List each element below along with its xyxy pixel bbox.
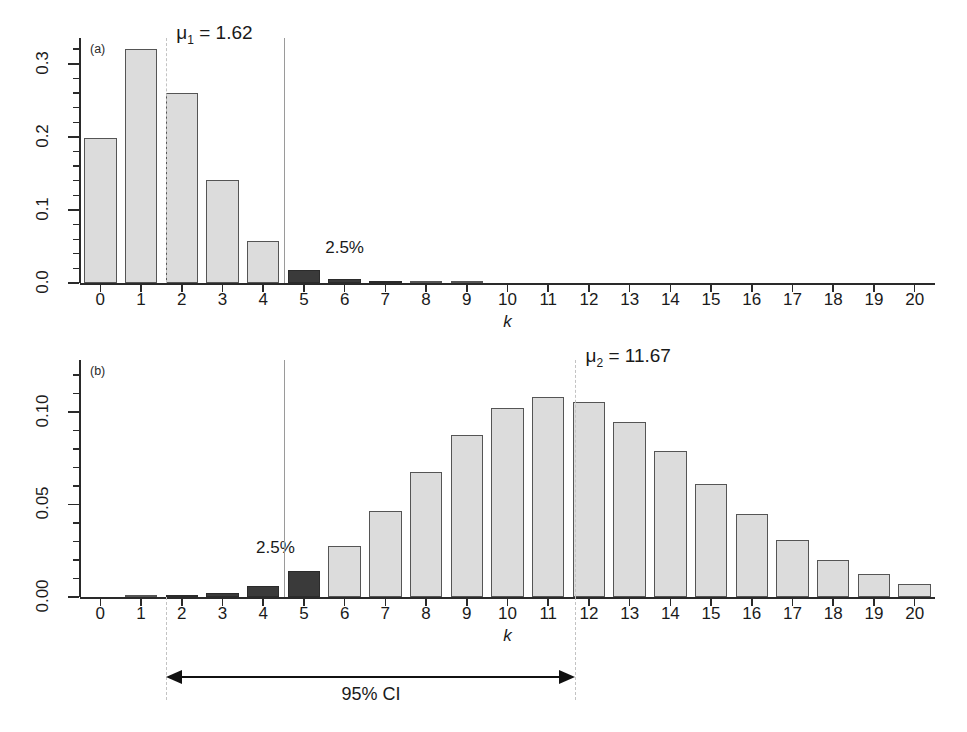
panel_a-x-tick-label: 15 [691, 290, 731, 310]
panel_b-y-minor-tick [73, 467, 79, 468]
panel_b-x-tick-label: 1 [121, 604, 161, 624]
panel_b-x-tick-label: 6 [325, 604, 365, 624]
panel_b-x-tick-label: 7 [365, 604, 405, 624]
panel_a-y-tick-label: 0.1 [33, 184, 53, 234]
panel-b-x-axis-title: k [498, 626, 518, 646]
figure-container: P(X = k) (a) μ1 = 1.62 2.5% k P(X = k) (… [0, 0, 967, 732]
panel_b-bar [736, 514, 769, 597]
panel-a-label: (a) [90, 42, 105, 56]
panel_a-y-minor-tick [73, 92, 79, 93]
panel_b-x-tick-label: 18 [813, 604, 853, 624]
ci-arrow-left-head [166, 670, 182, 684]
panel_b-bar [206, 593, 239, 597]
panel_b-bar [166, 595, 199, 597]
ci-label: 95% CI [301, 684, 441, 705]
panel_b-x-tick-label: 9 [447, 604, 487, 624]
ci-arrow-right-head [559, 670, 575, 684]
panel_b-y-major-tick [68, 596, 79, 598]
panel_a-x-tick-label: 19 [854, 290, 894, 310]
panel_b-y-major-tick [68, 504, 79, 506]
panel_b-y-minor-tick [73, 430, 79, 431]
panel_a-bar [288, 270, 321, 283]
panel_b-reference-line-solid [284, 360, 285, 597]
panel_b-y-minor-tick [73, 578, 79, 579]
panel_a-y-major-tick [68, 136, 79, 138]
panel_a-mu-symbol: μ [176, 22, 187, 43]
panel_b-x-tick-label: 5 [284, 604, 324, 624]
panel_a-bar [328, 279, 361, 283]
panel_b-mu-value: = 11.67 [603, 345, 671, 366]
panel_b-y-minor-tick [73, 485, 79, 486]
panel_a-x-tick-label: 2 [162, 290, 202, 310]
panel_b-x-tick-label: 19 [854, 604, 894, 624]
panel_a-y-major-tick [68, 63, 79, 65]
panel_b-bar [695, 484, 728, 597]
panel_b-y-minor-tick [73, 541, 79, 542]
panel_a-x-tick-label: 0 [80, 290, 120, 310]
panel_a-x-tick-label: 7 [365, 290, 405, 310]
ci-guide-line [575, 597, 576, 700]
panel_b-y-tick-label: 0.10 [33, 386, 53, 436]
panel_b-y-tick-label: 0.05 [33, 478, 53, 528]
panel_a-bar [247, 241, 280, 283]
panel_a-y-tick-label: 0.2 [33, 111, 53, 161]
panel_a-x-tick-label: 11 [528, 290, 568, 310]
panel_a-mean-line [166, 38, 167, 283]
panel_a-bar [451, 281, 484, 283]
panel_b-bar [898, 584, 931, 597]
panel_a-y-minor-tick [73, 195, 79, 196]
panel_a-y-tick-label: 0.3 [33, 38, 53, 88]
ci-arrow-line [178, 676, 563, 678]
panel_a-y-minor-tick [73, 165, 79, 166]
panel_b-x-tick-label: 2 [162, 604, 202, 624]
panel_a-y-minor-tick [73, 151, 79, 152]
panel_a-y-minor-tick [73, 253, 79, 254]
panel_a-y-minor-tick [73, 48, 79, 49]
panel_a-mu-subscript: 1 [187, 33, 194, 47]
panel-a-x-axis-title: k [498, 312, 518, 332]
panel_b-bar [288, 571, 321, 597]
panel_b-x-tick-label: 0 [80, 604, 120, 624]
panel_a-y-minor-tick [73, 78, 79, 79]
panel_b-x-tick-label: 16 [732, 604, 772, 624]
panel_a-x-tick-label: 10 [488, 290, 528, 310]
panel_a-bar [84, 138, 117, 283]
panel_a-x-tick-label: 17 [773, 290, 813, 310]
panel_b-y-major-tick [68, 411, 79, 413]
panel_a-x-tick-label: 18 [813, 290, 853, 310]
panel_a-bar [410, 281, 443, 283]
panel_a-x-tick-label: 14 [650, 290, 690, 310]
panel_a-x-tick-label: 8 [406, 290, 446, 310]
panel-b-label: (b) [90, 364, 105, 378]
panel_a-x-tick-label: 13 [610, 290, 650, 310]
panel_a-x-tick-label: 1 [121, 290, 161, 310]
panel_b-bar [532, 397, 565, 597]
panel_a-bar [369, 281, 402, 283]
panel_b-x-tick-label: 20 [895, 604, 935, 624]
panel_a-reference-line-solid [284, 38, 285, 283]
panel_a-x-tick-label: 6 [325, 290, 365, 310]
panel-a-tail-percent-label: 2.5% [317, 238, 373, 258]
panel_b-bar [613, 422, 646, 597]
panel_a-x-tick-label: 5 [284, 290, 324, 310]
panel_a-x-tick-label: 20 [895, 290, 935, 310]
panel_b-x-tick-label: 3 [203, 604, 243, 624]
panel_a-x-tick-label: 3 [203, 290, 243, 310]
panel_b-bar [247, 586, 280, 597]
panel_b-x-tick-label: 11 [528, 604, 568, 624]
panel_a-y-minor-tick [73, 180, 79, 181]
panel_b-mu-symbol: μ [585, 345, 596, 366]
panel_b-bar [491, 408, 524, 597]
ci-guide-line [166, 597, 167, 700]
panel_a-mu-value: = 1.62 [194, 22, 253, 43]
panel_b-x-tick-label: 8 [406, 604, 446, 624]
panel_a-bar [125, 49, 158, 283]
panel_b-y-axis-line [79, 360, 81, 597]
panel_a-y-tick-label: 0.0 [33, 257, 53, 307]
panel_b-bar [125, 595, 158, 597]
panel_a-x-tick-label: 12 [569, 290, 609, 310]
panel_a-bar [166, 93, 199, 283]
panel_a-y-major-tick [68, 209, 79, 211]
panel_a-y-minor-tick [73, 239, 79, 240]
panel_b-y-minor-tick [73, 522, 79, 523]
